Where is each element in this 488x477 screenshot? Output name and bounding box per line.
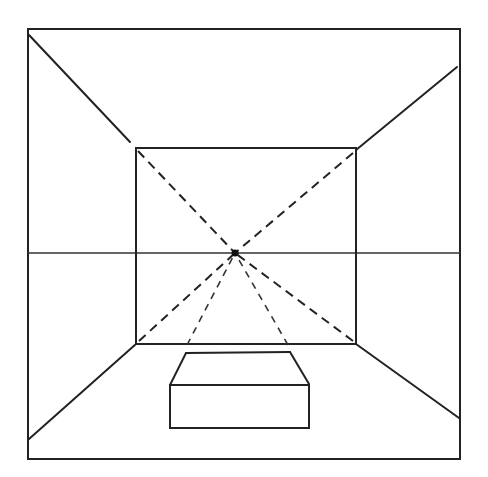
- box-back-top-edge: [186, 352, 290, 353]
- ceiling-left-edge: [29, 35, 130, 142]
- ceiling-right-edge: [356, 67, 457, 150]
- floor-right-edge: [356, 344, 459, 418]
- box-left-top-edge: [170, 353, 186, 385]
- box-front-face: [170, 385, 309, 428]
- perspective-canvas: [0, 0, 488, 477]
- construction-line-top-left: [138, 151, 235, 253]
- construction-line-box-right: [235, 253, 288, 345]
- construction-line-bottom-left: [139, 253, 235, 341]
- box: [170, 352, 309, 428]
- construction-line-bottom-right: [235, 253, 353, 341]
- construction-line-top-right: [235, 153, 353, 253]
- vanishing-point-dot: [232, 250, 239, 257]
- perspective-diagram: One-point perspective room with box: [0, 0, 488, 477]
- construction-line-box-left: [187, 253, 235, 345]
- outer-frame: [28, 29, 460, 459]
- floor-left-edge: [29, 344, 136, 439]
- box-right-top-edge: [290, 352, 309, 384]
